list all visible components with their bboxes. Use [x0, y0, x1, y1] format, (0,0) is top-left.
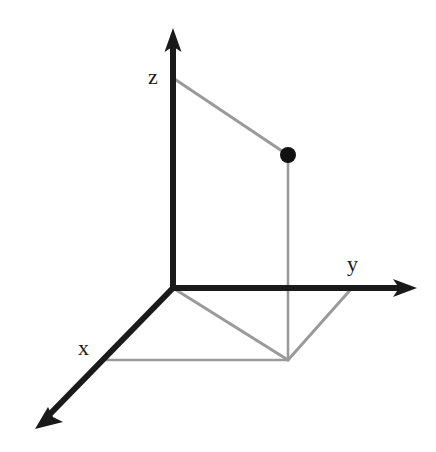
x-axis-arrowhead-icon — [35, 407, 63, 429]
y-axis-label: y — [347, 253, 358, 275]
origin-to-foot-diagonal-line — [173, 288, 288, 360]
y-component-guide-line — [288, 288, 352, 360]
x-axis-label: x — [78, 337, 89, 359]
axes-group — [35, 28, 417, 429]
z-height-guide-line — [173, 78, 288, 155]
coordinate-figure: z y x — [0, 0, 436, 452]
axes-drawing — [0, 0, 436, 452]
x-axis-line — [50, 288, 173, 414]
data-point-marker — [280, 147, 296, 163]
z-axis-label: z — [148, 66, 158, 88]
